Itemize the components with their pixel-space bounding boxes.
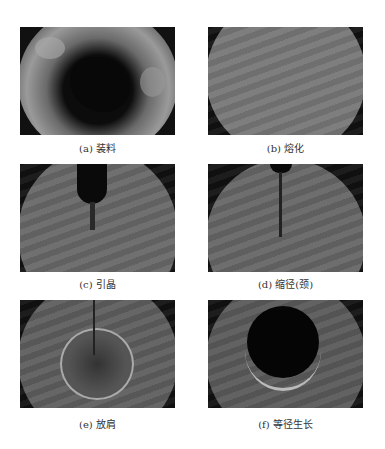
panel-e-shouldering-image: [20, 300, 175, 408]
neck: [93, 300, 95, 355]
neck: [279, 172, 282, 237]
panel-c-seeding-image: [20, 164, 175, 272]
panel-b-melting-image: [208, 27, 363, 135]
caption-d: (d) 缩径(颈): [208, 276, 363, 291]
caption-e: (e) 放肩: [20, 416, 175, 431]
panel-d-necking-image: [208, 164, 363, 272]
seed-crystal: [90, 202, 95, 230]
melt-surface: [208, 164, 363, 272]
light-chunk: [35, 37, 65, 59]
crystal-body: [247, 306, 319, 378]
crystal-shoulder-ring: [60, 328, 134, 400]
caption-b: (b) 熔化: [208, 140, 363, 155]
light-chunk: [140, 67, 165, 97]
caption-c: (c) 引晶: [20, 276, 175, 291]
melt-surface: [208, 27, 363, 135]
panel-f-body-growth-image: [208, 300, 363, 408]
seed-holder: [77, 164, 107, 204]
caption-a: (a) 装料: [20, 140, 175, 155]
caption-f: (f) 等径生长: [208, 416, 363, 431]
panel-a-charging-image: [20, 27, 175, 135]
